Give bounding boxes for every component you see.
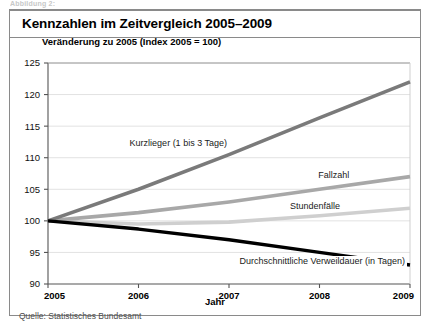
chart-panel: Kennzahlen im Zeitvergleich 2005–2009 [9, 9, 421, 316]
x-axis-label: Jahr [0, 296, 430, 307]
chart-subtitle: Veränderung zu 2005 (Index 2005 = 100) [42, 36, 221, 47]
series-label-verweildauer: Durchschnittliche Verweildauer (in Tagen… [238, 256, 407, 267]
page-title: Kennzahlen im Zeitvergleich 2005–2009 [22, 16, 272, 31]
series-label-kurzlieger: Kurzlieger (1 bis 3 Tage) [0, 138, 229, 149]
figure-root: Abbildung 2: Kennzahlen im Zeitvergleich… [0, 0, 430, 325]
series-label-fallzahl: Fallzahl [0, 170, 351, 181]
figure-caption-cutoff: Abbildung 2: [10, 0, 55, 8]
chart-title-bar: Kennzahlen im Zeitvergleich 2005–2009 [10, 11, 420, 38]
series-label-stundenfaelle: Stundenfälle [0, 201, 342, 212]
source-note: Quelle: Statistisches Bundesamt [19, 311, 141, 321]
